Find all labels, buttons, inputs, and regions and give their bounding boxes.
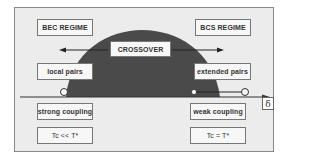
strong-coupling-label: strong coupling (37, 103, 93, 120)
crossover-label: CROSSOVER (110, 41, 171, 57)
extended-pair-right-circle (242, 89, 249, 96)
bec-regime-label: BEC REGIME (37, 19, 93, 36)
extended-pair-left-dot (191, 89, 196, 94)
weak-coupling-label: weak coupling (190, 103, 246, 120)
extended-pairs-label: extended pairs (194, 63, 251, 80)
arrow-right-head (217, 48, 224, 53)
arrow-left-head (59, 48, 66, 53)
local-pairs-label: local pairs (37, 63, 93, 80)
tc-equal-label: Tc = T* (190, 127, 246, 144)
tc-much-less-label: Tc << T* (37, 127, 93, 144)
bcs-regime-label: BCS REGIME (195, 19, 251, 36)
local-pair-circle (61, 89, 68, 96)
delta-axis-label: δ (262, 97, 274, 110)
